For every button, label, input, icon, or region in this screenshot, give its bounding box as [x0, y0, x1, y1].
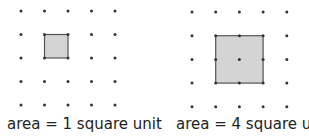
- grid-dot: [90, 10, 93, 13]
- grid-dot: [90, 57, 93, 60]
- grid-dot: [238, 34, 241, 37]
- grid-dot: [191, 82, 194, 85]
- grid-dot: [43, 33, 46, 36]
- grid-dot: [20, 57, 23, 60]
- grid-dot: [114, 57, 117, 60]
- grid-dot: [191, 11, 194, 14]
- grid-dot: [285, 105, 288, 108]
- grid-dot: [67, 10, 70, 13]
- caption-right: area = 4 square units: [176, 115, 309, 133]
- grid-dot: [67, 104, 70, 107]
- grid-dot: [262, 105, 265, 108]
- grid-dot: [238, 82, 241, 85]
- grid-dot: [214, 105, 217, 108]
- grid-dot: [262, 82, 265, 85]
- caption-left: area = 1 square unit: [7, 115, 162, 133]
- grid-dot: [238, 11, 241, 14]
- grid-dot: [214, 58, 217, 61]
- grid-dot: [214, 11, 217, 14]
- grid-dot: [20, 80, 23, 83]
- grid-dot: [43, 10, 46, 13]
- grid-dot: [43, 80, 46, 83]
- grid-dot: [191, 105, 194, 108]
- grid-dot: [285, 58, 288, 61]
- grid-dot: [114, 10, 117, 13]
- grid-dot: [90, 33, 93, 36]
- grid-dot: [238, 105, 241, 108]
- grid-dot: [67, 80, 70, 83]
- grid-dot: [67, 57, 70, 60]
- grid-dot: [90, 104, 93, 107]
- grid-dot: [191, 34, 194, 37]
- unit-square-figure: [20, 10, 117, 107]
- grid-dot: [20, 33, 23, 36]
- grid-dot: [214, 82, 217, 85]
- grid-dot: [214, 34, 217, 37]
- grid-dot: [90, 80, 93, 83]
- grid-dot: [238, 58, 241, 61]
- grid-dot: [285, 34, 288, 37]
- grid-dot: [285, 11, 288, 14]
- grid-dot: [114, 80, 117, 83]
- grid-dot: [20, 10, 23, 13]
- grid-dot: [285, 82, 288, 85]
- grid-dot: [43, 57, 46, 60]
- grid-dot: [114, 33, 117, 36]
- grid-dot: [114, 104, 117, 107]
- grid-dot: [262, 11, 265, 14]
- grid-dot: [67, 33, 70, 36]
- grid-dot: [20, 104, 23, 107]
- grid-dot: [191, 58, 194, 61]
- grid-dot: [262, 34, 265, 37]
- shaded-square: [45, 35, 69, 59]
- grid-dot: [43, 104, 46, 107]
- grid-dot: [262, 58, 265, 61]
- two-by-two-square-figure: [191, 11, 289, 109]
